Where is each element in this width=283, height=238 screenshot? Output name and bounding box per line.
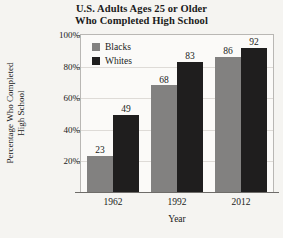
bar-whites-1992[interactable] [177, 62, 203, 192]
bar-label-blacks-1962: 23 [85, 145, 115, 155]
y-tick-mark-80 [76, 67, 80, 68]
bar-blacks-2012[interactable] [215, 57, 241, 192]
y-tick-label-80: 80% [32, 62, 80, 71]
bar-label-whites-1992: 83 [175, 51, 205, 61]
bar-whites-1962[interactable] [113, 115, 139, 192]
bar-group-1992: 68 83 [151, 35, 203, 192]
x-tick-label-1962: 1962 [83, 197, 143, 207]
legend-label-blacks: Blacks [105, 42, 131, 52]
y-tick-mark-40 [76, 130, 80, 131]
bar-blacks-1962[interactable] [87, 156, 113, 192]
y-tick-mark-100 [76, 35, 80, 36]
bar-blacks-1992[interactable] [151, 85, 177, 192]
legend-label-whites: Whites [105, 56, 132, 66]
bar-label-blacks-2012: 86 [213, 46, 243, 56]
x-axis-line [75, 192, 279, 193]
y-tick-mark-20 [76, 161, 80, 162]
x-axis-title: Year [80, 214, 274, 224]
y-axis-ticks: 100% 80% 60% 40% 20% [26, 0, 80, 238]
legend-item-blacks[interactable]: Blacks [92, 41, 132, 53]
y-tick-label-100: 100% [32, 31, 80, 40]
x-tick-label-2012: 2012 [211, 197, 271, 207]
x-tick-label-1992: 1992 [147, 197, 207, 207]
y-axis-title-line-1: Percentage Who Completed [5, 63, 16, 164]
legend-swatch-whites-icon [92, 57, 100, 65]
bar-chart: U.S. Adults Ages 25 or Older Who Complet… [0, 0, 283, 238]
bar-group-2012: 86 92 [215, 35, 267, 192]
y-tick-label-60: 60% [32, 94, 80, 103]
legend: Blacks Whites [92, 41, 132, 69]
y-tick-mark-60 [76, 98, 80, 99]
legend-swatch-blacks-icon [92, 43, 100, 51]
y-tick-label-40: 40% [32, 125, 80, 134]
bar-label-blacks-1992: 68 [149, 75, 179, 85]
bar-whites-2012[interactable] [241, 48, 267, 192]
bar-label-whites-1962: 49 [111, 104, 141, 114]
bar-label-whites-2012: 92 [239, 37, 269, 47]
y-tick-label-20: 20% [32, 157, 80, 166]
legend-item-whites[interactable]: Whites [92, 55, 132, 67]
